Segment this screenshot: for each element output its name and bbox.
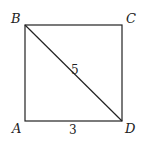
side-length-label: 3 bbox=[69, 123, 77, 137]
vertex-label-a: A bbox=[11, 121, 21, 136]
vertex-label-d: D bbox=[124, 121, 136, 136]
diagonal-length-label: 5 bbox=[71, 63, 79, 77]
vertex-label-b: B bbox=[10, 11, 21, 26]
vertex-label-c: C bbox=[126, 11, 136, 26]
diagram-canvas: B C A D 5 3 bbox=[0, 0, 157, 143]
